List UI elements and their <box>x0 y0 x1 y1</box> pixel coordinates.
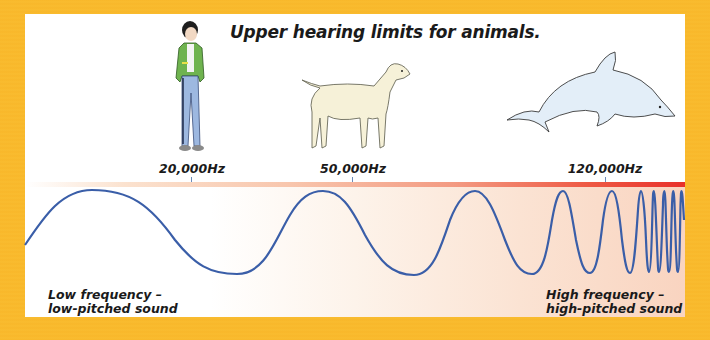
low-caption-line1: Low frequency – <box>48 288 178 302</box>
low-frequency-caption: Low frequency – low-pitched sound <box>48 288 178 316</box>
high-caption-line1: High frequency – <box>546 288 682 302</box>
low-caption-line2: low-pitched sound <box>48 302 178 316</box>
high-frequency-caption: High frequency – high-pitched sound <box>546 288 682 316</box>
high-caption-line2: high-pitched sound <box>546 302 682 316</box>
